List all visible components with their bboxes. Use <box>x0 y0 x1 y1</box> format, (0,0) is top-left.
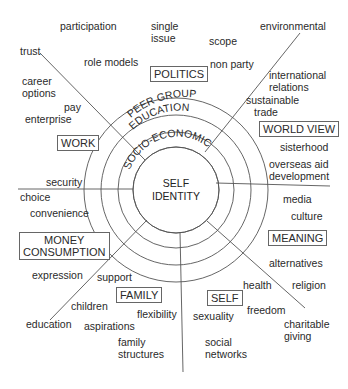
term-participation: participation <box>60 20 117 32</box>
issue-label: issue <box>151 32 178 44</box>
term-security: security <box>46 176 82 188</box>
term-health: health <box>243 279 272 291</box>
term-sexuality: sexuality <box>193 310 234 322</box>
term-convenience: convenience <box>30 207 89 219</box>
networks-label: networks <box>205 348 247 360</box>
center-line-2: IDENTITY <box>146 190 206 203</box>
structures-label: structures <box>118 348 164 360</box>
term-international-relations: international relations <box>269 69 326 93</box>
category-work: WORK <box>57 135 99 151</box>
giving-label: giving <box>284 330 330 342</box>
relations-label: relations <box>269 81 326 93</box>
consumption-label: CONSUMPTION <box>23 246 106 258</box>
category-meaning: MEANING <box>268 230 327 246</box>
social-label: social <box>205 336 247 348</box>
term-support: support <box>97 271 132 283</box>
term-overseas-aid-development: overseas aid development <box>269 158 329 182</box>
term-family-structures: family structures <box>118 336 164 360</box>
term-education: education <box>26 318 72 330</box>
overseas-aid-label: overseas aid <box>269 158 329 170</box>
ring-label-socio-economic: SOCIO-ECONOMIC <box>121 127 215 171</box>
charitable-label: charitable <box>284 318 330 330</box>
international-label: international <box>269 69 326 81</box>
term-charitable-giving: charitable giving <box>284 318 330 342</box>
term-pay: pay <box>64 101 81 113</box>
term-sisterhood: sisterhood <box>280 141 328 153</box>
term-children: children <box>71 300 108 312</box>
trade-label: trade <box>246 106 299 118</box>
options-label: options <box>22 87 56 99</box>
term-environmental: environmental <box>260 20 326 32</box>
term-culture: culture <box>291 210 323 222</box>
term-scope: scope <box>209 35 237 47</box>
career-label: career <box>22 75 56 87</box>
category-family: FAMILY <box>116 287 162 303</box>
term-alternatives: alternatives <box>269 257 323 269</box>
term-freedom: freedom <box>247 304 286 316</box>
center-label-self-identity: SELF IDENTITY <box>146 177 206 203</box>
term-aspirations: aspirations <box>84 320 135 332</box>
term-non-party: non party <box>210 58 254 70</box>
term-expression: expression <box>32 269 83 281</box>
term-flexibility: flexibility <box>137 308 177 320</box>
term-religion: religion <box>292 279 326 291</box>
money-label: MONEY <box>23 234 106 246</box>
term-single-issue: single issue <box>151 20 178 44</box>
term-media: media <box>283 193 312 205</box>
term-career-options: career options <box>22 75 56 99</box>
category-politics: POLITICS <box>150 66 208 82</box>
spoke-right <box>216 183 330 186</box>
center-line-1: SELF <box>146 177 206 190</box>
single-label: single <box>151 20 178 32</box>
development-label: development <box>269 170 329 182</box>
term-choice: choice <box>20 191 50 203</box>
term-sustainable-trade: sustainable trade <box>246 94 299 118</box>
term-trust: trust <box>20 45 40 57</box>
category-self: SELF <box>207 290 243 306</box>
category-money-consumption: MONEY CONSUMPTION <box>19 232 110 260</box>
family-label: family <box>118 336 164 348</box>
term-role-models: role models <box>84 56 138 68</box>
term-enterprise: enterprise <box>25 113 72 125</box>
sustainable-label: sustainable <box>246 94 299 106</box>
term-social-networks: social networks <box>205 336 247 360</box>
spoke-bottom <box>180 232 183 372</box>
category-world-view: WORLD VIEW <box>259 121 339 137</box>
